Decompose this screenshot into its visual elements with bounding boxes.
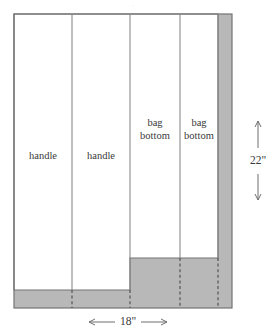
top-artifact-mark: · <box>132 3 133 8</box>
waste-bag-bottom-block <box>130 258 218 308</box>
diagram-canvas: handle handle bag bottom bag bottom 18" <box>0 0 276 336</box>
waste-right-strip <box>218 14 232 308</box>
panel-label-handle-2: handle <box>87 150 115 161</box>
panel-label-bag-bottom-1-line2: bottom <box>140 130 170 141</box>
panel-label-bag-bottom-2-line2: bottom <box>184 130 214 141</box>
dimension-width-label: 18" <box>120 315 136 327</box>
dimension-height-group: 22" <box>250 121 266 200</box>
panel-label-bag-bottom-2-line1: bag <box>191 117 207 128</box>
panel-label-bag-bottom-1-line1: bag <box>147 117 163 128</box>
fabric-layout-diagram: handle handle bag bottom bag bottom 18" <box>0 0 276 336</box>
dimension-height-label: 22" <box>250 154 266 166</box>
panel-label-handle-1: handle <box>29 150 57 161</box>
dimension-width-group: 18" <box>89 315 167 327</box>
